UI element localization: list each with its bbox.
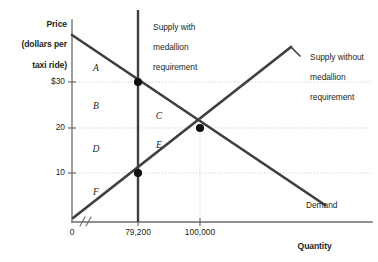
y-axis-title-line3: taxi ride) — [32, 60, 67, 70]
region-label-e: E — [151, 139, 167, 150]
y-tick-label-20: 20 — [26, 123, 65, 133]
marker-supply-price-point — [134, 169, 142, 177]
region-label-c: C — [151, 110, 167, 121]
x-tick-label-79200: 79,200 — [108, 228, 168, 238]
marker-price-ceiling-point — [134, 78, 142, 86]
region-label-f: F — [88, 186, 104, 197]
supply-with-medallion-label-line1: Supply with — [153, 22, 195, 32]
y-tick-label-30: $30 — [26, 77, 65, 87]
supply-without-leader-line — [291, 47, 300, 56]
x-axis-title-line1: Quantity — [298, 241, 332, 251]
demand-label: Demand — [306, 201, 366, 211]
y-axis-title-line2: (dollars per — [21, 39, 67, 49]
y-axis-title: Price (dollars per taxi ride) — [0, 9, 67, 80]
supply-with-medallion-label-line2: medallion — [153, 42, 188, 52]
origin-label: 0 — [60, 228, 84, 238]
region-label-d: D — [88, 143, 104, 154]
supply-with-medallion-label: Supply with medallion requirement — [144, 13, 230, 82]
y-axis-title-line1: Price — [46, 19, 67, 29]
supply-without-medallion-label-line2: medallion — [310, 72, 345, 82]
supply-without-medallion-label: Supply without medallion requirement — [301, 43, 378, 112]
region-label-b: B — [88, 100, 104, 111]
x-axis-title: Quantity (taxi rides per day) — [245, 231, 375, 262]
supply-with-medallion-label-line3: requirement — [153, 62, 197, 72]
region-label-a: A — [88, 62, 104, 73]
supply-without-medallion-label-line3: requirement — [310, 92, 354, 102]
supply-without-medallion-label-line1: Supply without — [310, 52, 364, 62]
supply-demand-figure: Price (dollars per taxi ride) $30 20 10 … — [0, 0, 378, 262]
marker-free-market-equilibrium — [196, 124, 204, 132]
y-tick-label-10: 10 — [26, 168, 65, 178]
x-tick-label-100000: 100,000 — [167, 228, 233, 238]
